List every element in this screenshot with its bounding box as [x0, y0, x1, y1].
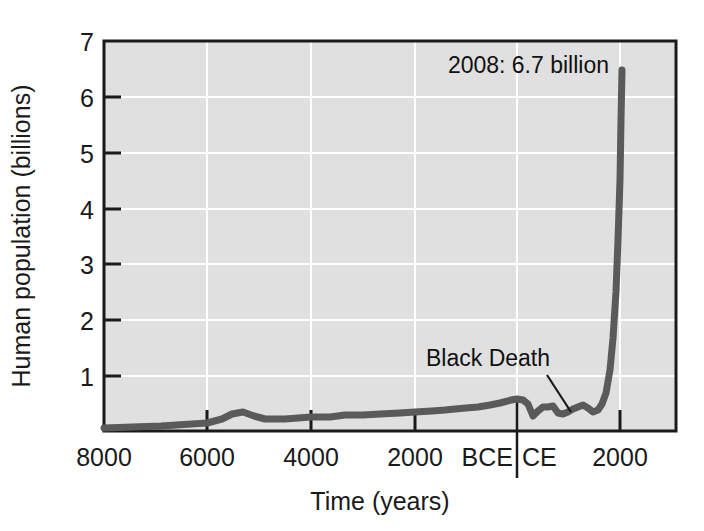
x-tick-label-2000-ce: 2000 — [592, 443, 648, 471]
y-tick-label-7: 7 — [80, 28, 94, 56]
y-tick-label-6: 6 — [80, 84, 94, 112]
plot-background — [104, 41, 676, 431]
x-tick-label-2000-bce: 2000 — [387, 443, 443, 471]
y-tick-label-2: 2 — [80, 307, 94, 335]
population-growth-chart: 7 6 5 4 3 2 1 8000 6000 4000 2000 BCE CE… — [0, 0, 704, 531]
y-tick-label-4: 4 — [80, 196, 94, 224]
y-tick-label-1: 1 — [80, 363, 94, 391]
x-axis-title: Time (years) — [310, 487, 449, 515]
y-tick-label-5: 5 — [80, 140, 94, 168]
y-axis-title: Human population (billions) — [7, 85, 35, 388]
x-tick-label-bce: BCE — [462, 443, 513, 471]
x-tick-label-ce: CE — [522, 443, 557, 471]
annotation-black-death-label: Black Death — [426, 345, 550, 371]
x-tick-label-4000: 4000 — [283, 443, 339, 471]
annotation-2008-label: 2008: 6.7 billion — [448, 52, 609, 78]
x-tick-label-6000: 6000 — [179, 443, 235, 471]
x-tick-label-8000: 8000 — [76, 443, 132, 471]
y-tick-label-3: 3 — [80, 251, 94, 279]
chart-page: 7 6 5 4 3 2 1 8000 6000 4000 2000 BCE CE… — [0, 0, 704, 531]
